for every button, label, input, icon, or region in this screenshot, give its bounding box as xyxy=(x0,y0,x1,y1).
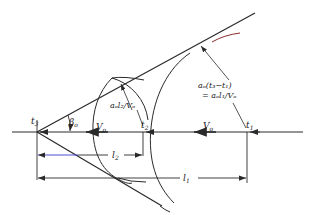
label-t1: t1 xyxy=(246,120,253,131)
annotation-large-line1: aₒ(t₃−t₁) xyxy=(198,81,232,90)
label-beta: βo xyxy=(68,117,78,128)
annotation-small: aₒl₂/Vₒ xyxy=(110,101,135,110)
tangent-tick-lower-large xyxy=(160,206,170,212)
label-l1: l1 xyxy=(183,173,190,184)
mach-cone-diagram: t3 t2 t1 βo Vo Vo aₒl₂/Vₒ aₒ(t₃−t₁) = aₒ… xyxy=(0,0,311,215)
mach-line-upper xyxy=(37,13,255,132)
leader-large-to-t1 xyxy=(233,103,246,128)
label-t3: t3 xyxy=(31,116,39,127)
leader-large xyxy=(201,46,229,80)
label-l2: l2 xyxy=(112,150,119,161)
annotation-large-line2: = aₒl₁/Vₒ xyxy=(202,91,236,100)
label-t2: t2 xyxy=(141,120,149,131)
label-velocity-left: Vo xyxy=(96,122,107,133)
wavefront-t2 xyxy=(112,78,148,120)
label-velocity-right: Vo xyxy=(203,121,214,132)
